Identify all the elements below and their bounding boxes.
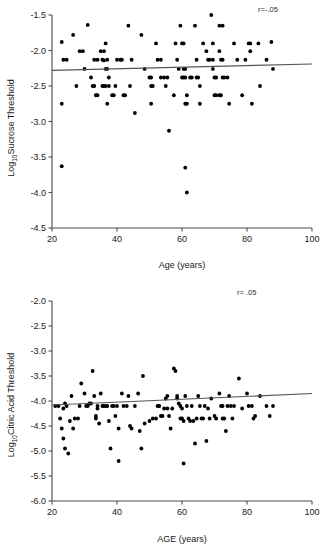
scatter-point <box>230 417 234 421</box>
scatter-point <box>164 84 168 88</box>
scatter-point <box>71 427 75 431</box>
scatter-point <box>183 394 187 398</box>
scatter-point <box>61 437 65 441</box>
sucrose-correlation-annotation: r=-.05 <box>258 5 278 14</box>
sucrose-data-points <box>60 13 275 194</box>
scatter-point <box>211 58 215 62</box>
scatter-point <box>219 93 223 97</box>
scatter-point <box>159 76 163 80</box>
scatter-point <box>196 394 200 398</box>
scatter-point <box>191 419 195 423</box>
citric-correlation-annotation: r= .05 <box>237 288 256 297</box>
scatter-point <box>126 24 130 28</box>
figure-container: -1.5-2.0-2.5-3.0-3.5-4.0-4.5 20406080100… <box>0 0 326 547</box>
scatter-point <box>117 427 121 431</box>
y-tick-label: -5.0 <box>30 446 46 456</box>
sucrose-y-tick-labels: -1.5-2.0-2.5-3.0-3.5-4.0-4.5 <box>30 10 46 233</box>
scatter-point <box>61 407 65 411</box>
scatter-point <box>183 166 187 170</box>
citric-x-tick-labels: 20406080100 <box>47 507 320 517</box>
scatter-point <box>92 58 96 62</box>
scatter-point <box>86 404 90 408</box>
scatter-point <box>203 404 207 408</box>
scatter-point <box>182 42 186 46</box>
scatter-point <box>221 58 225 62</box>
svg-text:Log10Sucrose Threshold: Log10Sucrose Threshold <box>6 79 18 177</box>
y-tick-label: -2.0 <box>30 296 46 306</box>
scatter-point <box>195 417 199 421</box>
scatter-point <box>224 429 228 433</box>
scatter-point <box>178 24 182 28</box>
citric-plot-svg: -2.0-2.5-3.0-3.5-4.0-4.5-5.0-5.5-6.0 204… <box>0 273 326 547</box>
scatter-point <box>222 76 226 80</box>
y-tick-label: -5.5 <box>30 471 46 481</box>
scatter-point <box>60 164 64 168</box>
scatter-point <box>104 84 108 88</box>
scatter-point <box>180 407 184 411</box>
scatter-point <box>60 102 64 106</box>
scatter-point <box>214 417 218 421</box>
scatter-point <box>237 377 241 381</box>
y-tick-label: -2.5 <box>30 321 46 331</box>
scatter-point <box>65 58 69 62</box>
scatter-point <box>73 417 77 421</box>
scatter-point <box>235 58 239 62</box>
y-tick-label: -4.0 <box>30 188 46 198</box>
scatter-point <box>248 42 252 46</box>
sucrose-axis-frame <box>52 15 312 228</box>
scatter-point <box>130 427 134 431</box>
citric-x-axis-title: AGE (years) <box>157 534 207 544</box>
y-tick-label: -4.5 <box>30 223 46 233</box>
scatter-point <box>107 84 111 88</box>
citric-y-tick-labels: -2.0-2.5-3.0-3.5-4.0-4.5-5.0-5.5-6.0 <box>30 296 46 506</box>
scatter-point <box>105 58 109 62</box>
x-tick-label: 40 <box>112 234 122 244</box>
scatter-point <box>125 404 129 408</box>
scatter-point <box>91 369 95 373</box>
scatter-point <box>115 404 119 408</box>
scatter-point <box>201 417 205 421</box>
scatter-point <box>195 58 199 62</box>
scatter-point <box>130 58 134 62</box>
scatter-point <box>204 49 208 53</box>
scatter-point <box>149 76 153 80</box>
scatter-point <box>81 49 85 53</box>
scatter-point <box>222 417 226 421</box>
scatter-point <box>60 40 64 44</box>
y-tick-label: -4.5 <box>30 421 46 431</box>
scatter-point <box>83 392 87 396</box>
scatter-point <box>78 49 82 53</box>
scatter-point <box>76 417 80 421</box>
citric-data-points <box>53 367 275 466</box>
scatter-point <box>193 24 197 28</box>
sucrose-y-axis-title: Log10Sucrose Threshold <box>6 79 18 177</box>
scatter-point <box>185 404 189 408</box>
scatter-point <box>190 404 194 408</box>
scatter-point <box>151 417 155 421</box>
scatter-point <box>100 84 104 88</box>
scatter-point <box>89 76 93 80</box>
scatter-point <box>151 84 155 88</box>
y-tick-label: -3.0 <box>30 346 46 356</box>
citric-axis-frame <box>52 301 312 501</box>
sucrose-y-title-prefix: Log <box>6 162 16 177</box>
scatter-point <box>107 419 111 423</box>
sucrose-axes <box>49 15 313 232</box>
scatter-point <box>74 84 78 88</box>
scatter-point <box>174 369 178 373</box>
scatter-point <box>169 427 173 431</box>
scatter-point <box>79 382 83 386</box>
scatter-point <box>185 191 189 195</box>
scatter-point <box>211 42 215 46</box>
scatter-point <box>182 419 186 423</box>
x-tick-label: 100 <box>304 507 319 517</box>
x-tick-label: 20 <box>47 507 57 517</box>
scatter-point <box>206 407 210 411</box>
scatter-point <box>123 93 127 97</box>
x-tick-label: 80 <box>242 234 252 244</box>
scatter-point <box>113 414 117 418</box>
scatter-point <box>149 102 153 106</box>
scatter-point <box>258 84 262 88</box>
scatter-point <box>269 40 273 44</box>
sucrose-threshold-panel: -1.5-2.0-2.5-3.0-3.5-4.0-4.5 20406080100… <box>0 0 326 273</box>
